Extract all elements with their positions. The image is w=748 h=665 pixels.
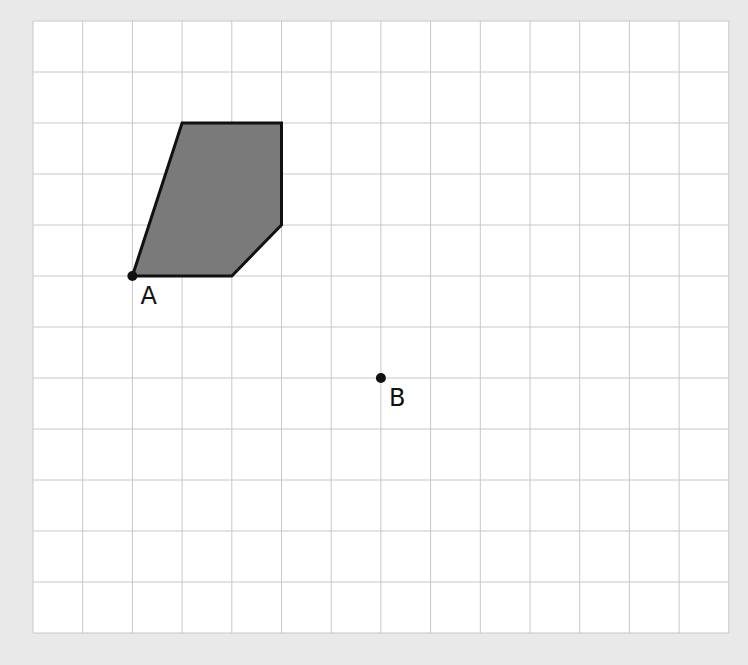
- point-a-label: A: [140, 282, 157, 310]
- grid-diagram: AB: [0, 0, 748, 665]
- point-b-label: B: [389, 384, 405, 412]
- point-b-dot: [376, 373, 386, 383]
- point-a-dot: [127, 271, 137, 281]
